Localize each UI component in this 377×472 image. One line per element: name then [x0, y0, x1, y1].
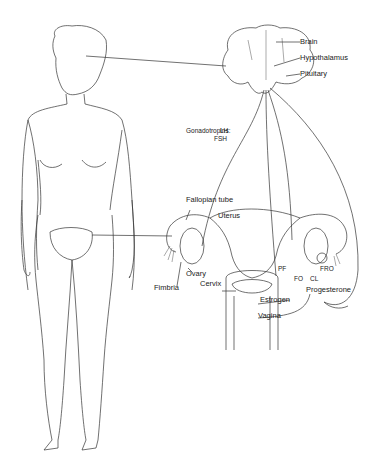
- label-brain: Brain: [300, 38, 318, 46]
- pelvis-to-organs-line: [92, 235, 172, 236]
- label-cl: CL: [310, 276, 318, 283]
- arrow-lh-left: [202, 90, 264, 246]
- label-fallopian-tube: Fallopian tube: [186, 196, 233, 204]
- reproductive-organs: [164, 209, 348, 350]
- label-vagina: Vagina: [258, 312, 281, 320]
- label-uterus: Uterus: [218, 212, 240, 220]
- human-figure: [21, 26, 134, 450]
- label-fsh: FSH: [214, 136, 227, 143]
- label-ovary: Ovary: [186, 270, 206, 278]
- label-fro: FRO: [320, 266, 334, 273]
- label-cervix: Cervix: [200, 280, 221, 288]
- label-fimbria: Fimbria: [154, 284, 179, 292]
- label-hypothalamus: Hypothalamus: [300, 54, 348, 62]
- label-progesterone: Progesterone: [306, 286, 351, 294]
- diagram-canvas: Brain Hypothalamus Pituitary Gonadotropi…: [0, 0, 377, 472]
- head-to-brain-line: [86, 56, 226, 66]
- label-lh: LH: [220, 128, 228, 135]
- label-estrogen: Estrogen: [260, 296, 290, 304]
- label-pf: PF: [278, 266, 286, 273]
- label-pituitary: Pituitary: [300, 70, 327, 78]
- label-fo: FO: [294, 276, 303, 283]
- arrow-to-uterus: [266, 90, 276, 276]
